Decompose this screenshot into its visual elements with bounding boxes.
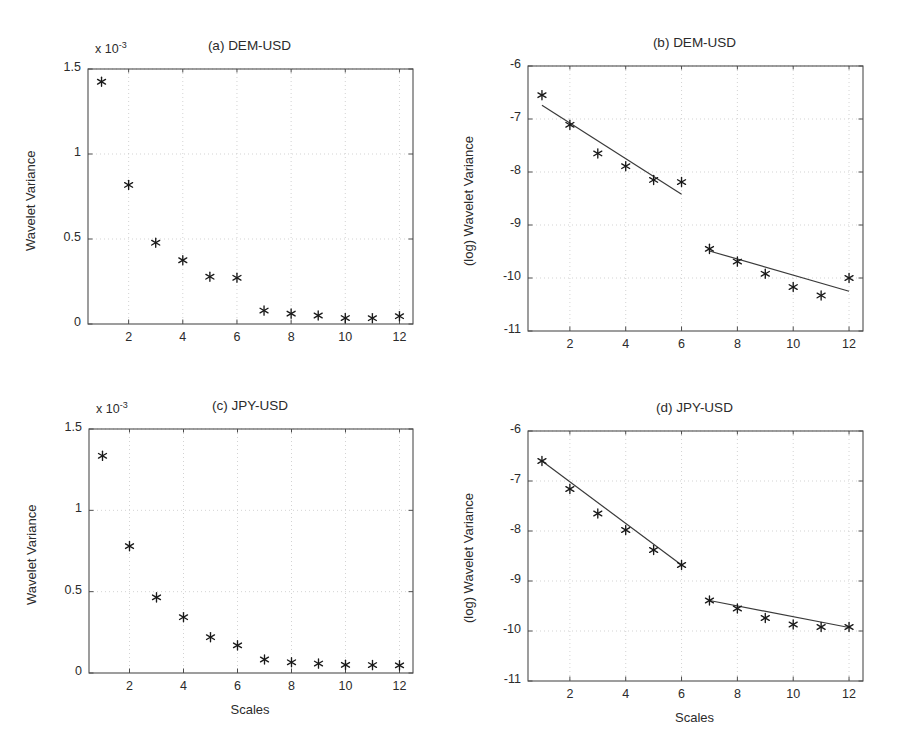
panel-a-ytick-1: 0.5 — [35, 230, 81, 244]
data-point-marker — [650, 175, 658, 184]
data-point-marker — [594, 509, 602, 518]
panel-c-xtick-2: 2 — [110, 679, 150, 693]
plot-box — [528, 66, 863, 331]
data-point-marker — [594, 149, 602, 158]
panel-a: (a) DEM-USDx 10-32468101200.511.5Wavelet… — [17, 38, 432, 363]
exponent-prefix: x 10 — [96, 402, 120, 416]
data-point-marker — [845, 273, 853, 282]
panel-c-xtick-6: 6 — [218, 679, 258, 693]
panel-d-ytick-1: -10 — [475, 622, 521, 636]
regression-line-fit-scales-1-6 — [542, 105, 682, 194]
data-point-marker — [678, 560, 686, 569]
panel-c-ytick-0: 0 — [36, 664, 82, 678]
panel-a-xtick-2: 2 — [109, 330, 149, 344]
panel-d-xtick-8: 8 — [717, 687, 757, 701]
plot-box — [528, 431, 863, 681]
panel-b-title: (b) DEM-USD — [527, 35, 862, 50]
panel-c: (c) JPY-USDx 10-32468101200.511.5Wavelet… — [18, 398, 432, 712]
panel-b-plot-area — [527, 65, 864, 332]
regression-line-fit-scales-1-6 — [542, 461, 682, 565]
data-point-marker — [341, 313, 349, 322]
wavelet-variance-figure: (a) DEM-USDx 10-32468101200.511.5Wavelet… — [0, 0, 897, 755]
data-point-marker — [314, 311, 322, 320]
panel-b-ytick-0: -11 — [475, 322, 521, 336]
panel-b-xtick-10: 10 — [773, 337, 813, 351]
data-point-marker — [98, 77, 106, 86]
panel-a-xtick-10: 10 — [325, 330, 365, 344]
panel-a-ytick-2: 1 — [35, 145, 81, 159]
panel-c-xlabel: Scales — [88, 702, 412, 717]
data-point-marker — [206, 272, 214, 281]
data-point-marker — [260, 306, 268, 315]
data-point-marker — [538, 456, 546, 465]
data-point-marker — [678, 177, 686, 186]
panel-b-xtick-12: 12 — [829, 337, 869, 351]
panel-d-xtick-2: 2 — [550, 687, 590, 701]
data-point-marker — [180, 613, 188, 622]
data-point-marker — [261, 655, 269, 664]
panel-d-ytick-2: -9 — [475, 572, 521, 586]
panel-b-xtick-6: 6 — [662, 337, 702, 351]
panel-d-ylabel: (log) Wavelet Variance — [461, 493, 476, 623]
panel-d-ytick-3: -8 — [475, 522, 521, 536]
exponent-prefix: x 10 — [95, 42, 119, 56]
data-point-marker — [761, 613, 769, 622]
exponent-power: -3 — [120, 400, 128, 410]
panel-b-ytick-3: -8 — [475, 163, 521, 177]
panel-d: (d) JPY-USD24681012-11-10-9-8-7-6(log) W… — [457, 400, 882, 720]
panel-d-title: (d) JPY-USD — [527, 400, 862, 415]
panel-c-ytick-1: 0.5 — [36, 583, 82, 597]
panel-d-xtick-4: 4 — [606, 687, 646, 701]
data-point-marker — [817, 622, 825, 631]
data-point-marker — [152, 238, 160, 247]
data-point-marker — [369, 660, 377, 669]
panel-c-plot-area — [88, 428, 414, 674]
panel-d-plot-area — [527, 430, 864, 682]
panel-a-xtick-4: 4 — [163, 330, 203, 344]
panel-c-ylabel: Wavelet Variance — [24, 505, 39, 605]
panel-a-title: (a) DEM-USD — [87, 38, 412, 53]
data-point-marker — [233, 273, 241, 282]
panel-d-ytick-4: -7 — [475, 472, 521, 486]
panel-c-ytick-3: 1.5 — [36, 420, 82, 434]
plot-box — [88, 69, 413, 324]
data-point-marker — [288, 658, 296, 667]
panel-b-ytick-5: -6 — [475, 57, 521, 71]
panel-b-ytick-1: -10 — [475, 269, 521, 283]
panel-c-exponent-label: x 10-3 — [96, 400, 128, 416]
panel-a-xtick-6: 6 — [217, 330, 257, 344]
panel-a-ytick-0: 0 — [35, 315, 81, 329]
data-point-marker — [207, 633, 215, 642]
panel-a-xtick-8: 8 — [271, 330, 311, 344]
panel-b-xtick-2: 2 — [550, 337, 590, 351]
panel-d-ytick-0: -11 — [475, 672, 521, 686]
data-point-marker — [761, 269, 769, 278]
panel-c-xtick-4: 4 — [164, 679, 204, 693]
panel-c-xtick-12: 12 — [380, 679, 420, 693]
data-point-marker — [566, 484, 574, 493]
panel-b-ylabel: (log) Wavelet Variance — [461, 135, 476, 265]
panel-a-ylabel: Wavelet Variance — [23, 150, 38, 250]
panel-a-exponent-label: x 10-3 — [95, 40, 127, 56]
data-point-marker — [368, 314, 376, 323]
panel-b-xtick-4: 4 — [606, 337, 646, 351]
panel-d-xlabel: Scales — [527, 710, 862, 725]
panel-c-ytick-2: 1 — [36, 501, 82, 515]
panel-a-plot-area — [87, 68, 414, 325]
panel-b-xtick-8: 8 — [717, 337, 757, 351]
panel-d-xtick-10: 10 — [773, 687, 813, 701]
panel-c-xtick-8: 8 — [272, 679, 312, 693]
panel-d-xtick-12: 12 — [829, 687, 869, 701]
panel-c-xtick-10: 10 — [326, 679, 366, 693]
plot-box — [89, 429, 413, 673]
data-point-marker — [789, 620, 797, 629]
data-point-marker — [126, 542, 134, 551]
data-point-marker — [234, 641, 242, 650]
panel-d-xtick-6: 6 — [662, 687, 702, 701]
data-point-marker — [538, 91, 546, 100]
data-point-marker — [153, 593, 161, 602]
panel-a-ytick-3: 1.5 — [35, 60, 81, 74]
panel-d-ytick-5: -6 — [475, 422, 521, 436]
data-point-marker — [622, 525, 630, 534]
panel-c-title: (c) JPY-USD — [88, 398, 412, 413]
